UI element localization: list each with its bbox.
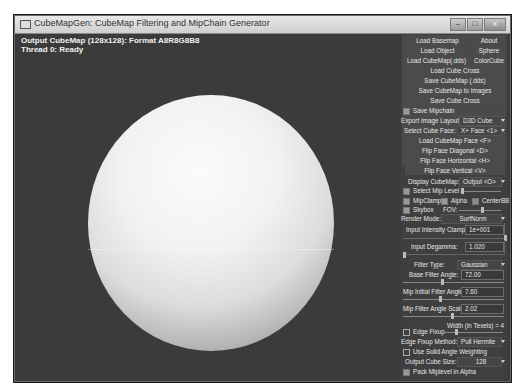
export-image-layout-label: Export Image Layout: — [401, 116, 461, 125]
chevron-down-icon — [501, 180, 505, 183]
select-cube-face-select[interactable]: X+ Face <1> — [457, 126, 502, 136]
save-mipchain-checkbox[interactable] — [403, 108, 410, 115]
base-filter-angle-field[interactable]: 72.00 — [461, 270, 504, 280]
mip-filter-angle-scale-slider-thumb[interactable] — [451, 313, 454, 319]
window-controls: – □ x — [449, 18, 506, 31]
base-filter-angle-row: Base Filter Angle: 72.00 — [401, 270, 508, 279]
select-cube-face-label: Select Cube Face: — [404, 126, 456, 135]
about-button[interactable]: About — [473, 36, 505, 45]
alpha-checkbox[interactable] — [441, 198, 448, 205]
select-mip-level-checkbox[interactable] — [403, 188, 410, 195]
skybox-checkbox[interactable] — [403, 207, 410, 214]
app-icon — [20, 20, 31, 29]
render-mode-row: Render Mode: SurfNorm — [401, 214, 508, 223]
app-window: CubeMapGen: CubeMap Filtering and MipCha… — [14, 15, 511, 382]
pack-mip-alpha-label: Pack Miplevel in Alpha — [413, 368, 476, 375]
chevron-down-icon — [501, 263, 505, 266]
output-format-status: Output CubeMap (128x128): Format A8R8G8B… — [21, 36, 199, 45]
minimize-button[interactable]: – — [450, 18, 466, 31]
filter-type-row: Filter Type: Gaussian — [401, 260, 508, 269]
title-bar[interactable]: CubeMapGen: CubeMap Filtering and MipCha… — [15, 16, 510, 34]
mip-level-slider-thumb[interactable] — [461, 188, 464, 194]
chevron-down-icon — [501, 129, 505, 132]
colorcube-button[interactable]: ColorCube — [473, 56, 505, 65]
base-filter-angle-slider-thumb[interactable] — [441, 279, 444, 285]
load-object-button[interactable]: Load Object — [405, 46, 470, 55]
input-intensity-clamp-row: Input Intensity Clamp: 1e+001 — [401, 225, 508, 234]
control-panel: Load Basemap About Load Object Sphere Lo… — [401, 34, 508, 380]
save-cubemap-dds-button[interactable]: Save CubeMap (.dds) — [405, 76, 505, 85]
export-image-layout-select[interactable]: D3D Cube — [459, 116, 502, 126]
output-cube-size-select[interactable]: 128 — [457, 357, 502, 367]
fov-slider-thumb[interactable] — [481, 207, 484, 213]
flip-face-horizontal-button[interactable]: Flip Face Horizontal <H> — [405, 156, 505, 165]
fov-label: FOV: — [443, 205, 457, 214]
mip-initial-filter-angle-field[interactable]: 7.60 — [461, 287, 504, 297]
mip-filter-angle-scale-label: Mip Filter Angle Scale: — [403, 304, 466, 313]
edge-fixup-row: Edge Fixup — [401, 327, 508, 336]
input-degamma-row: Input Degamma: 1.020 — [401, 242, 508, 251]
display-cubemap-label: Display CubeMap: — [408, 177, 459, 186]
mip-initial-filter-angle-slider-thumb[interactable] — [439, 296, 442, 302]
export-image-layout-row: Export Image Layout: D3D Cube — [401, 116, 508, 125]
chevron-down-icon — [501, 217, 505, 220]
mip-level-slider[interactable] — [461, 191, 501, 192]
load-cubemap-dds-button[interactable]: Load CubeMap(.dds) — [403, 56, 470, 65]
base-filter-angle-slider[interactable] — [403, 282, 504, 283]
input-degamma-field[interactable]: 1.020 — [465, 242, 504, 252]
select-cube-face-row: Select Cube Face: X+ Face <1> — [401, 126, 508, 135]
save-cubemap-images-button[interactable]: Save CubeMap to Images — [405, 86, 505, 95]
select-mip-level-row: Select Mip Level — [401, 186, 508, 195]
mip-filter-angle-scale-field[interactable]: 2.02 — [461, 304, 504, 314]
mipclamp-label: MipClamp — [413, 197, 441, 204]
input-intensity-clamp-field[interactable]: 1e+001 — [465, 225, 504, 235]
select-mip-level-label: Select Mip Level — [413, 187, 459, 194]
flip-face-vertical-button[interactable]: Flip Face Vertical <V> — [405, 166, 505, 175]
sphere-button[interactable]: Sphere — [473, 46, 505, 55]
use-solid-angle-label: Use Solid Angle Weighting — [413, 348, 487, 355]
mip-initial-filter-angle-label: Mip Initial Filter Angle: — [403, 287, 465, 296]
pack-mip-alpha-checkbox[interactable] — [403, 369, 410, 376]
use-solid-angle-checkbox[interactable] — [403, 349, 410, 356]
mipclamp-checkbox[interactable] — [403, 198, 410, 205]
degamma-slider-thumb[interactable] — [403, 252, 406, 258]
input-intensity-clamp-label: Input Intensity Clamp: — [406, 225, 467, 234]
cube-face-seam — [88, 249, 334, 250]
solid-angle-row: Use Solid Angle Weighting — [401, 347, 508, 356]
thread-status: Thread 0: Ready — [21, 45, 199, 54]
flip-face-diagonal-button[interactable]: Flip Face Diagonal <D> — [405, 146, 505, 155]
output-cube-size-row: Output Cube Size: 128 — [401, 357, 508, 366]
load-cube-cross-button[interactable]: Load Cube Cross — [405, 66, 505, 75]
edge-fixup-method-label: Edge Fixup Method: — [401, 337, 457, 346]
save-mipchain-label: Save Mipchain — [413, 107, 454, 114]
centerbb-checkbox[interactable] — [472, 198, 479, 205]
maximize-button[interactable]: □ — [467, 18, 483, 31]
view-options-row: MipClamp Alpha CenterBB — [401, 196, 508, 205]
input-degamma-label: Input Degamma: — [411, 242, 458, 251]
mip-initial-filter-angle-slider[interactable] — [403, 299, 504, 300]
fov-slider[interactable] — [459, 210, 501, 211]
chevron-down-icon — [501, 360, 505, 363]
close-button[interactable]: x — [484, 18, 506, 31]
mip-initial-filter-angle-row: Mip Initial Filter Angle: 7.60 — [401, 287, 508, 296]
save-cube-cross-button[interactable]: Save Cube Cross — [405, 96, 505, 105]
edge-fixup-method-row: Edge Fixup Method: Pull Hermite — [401, 337, 508, 346]
centerbb-label: CenterBB — [482, 197, 509, 204]
filter-type-select[interactable]: Gaussian — [457, 260, 502, 270]
base-filter-angle-label: Base Filter Angle: — [409, 270, 458, 279]
load-cubemap-face-button[interactable]: Load CubeMap Face <F> — [405, 136, 505, 145]
chevron-down-icon — [501, 119, 505, 122]
cubemap-viewport[interactable]: Output CubeMap (128x128): Format A8R8G8B… — [17, 34, 401, 380]
pack-mip-alpha-row: Pack Miplevel in Alpha — [401, 367, 508, 376]
edge-fixup-method-select[interactable]: Pull Hermite — [457, 337, 502, 347]
render-mode-label: Render Mode: — [401, 214, 441, 223]
load-basemap-button[interactable]: Load Basemap — [405, 36, 470, 45]
chevron-down-icon — [501, 340, 505, 343]
filter-type-label: Filter Type: — [414, 260, 445, 269]
output-cube-size-label: Output Cube Size: — [405, 357, 456, 366]
alpha-label: Alpha — [451, 197, 467, 204]
skybox-row: Skybox FOV: — [401, 205, 508, 214]
save-mipchain-row[interactable]: Save Mipchain — [401, 106, 508, 115]
edge-fixup-checkbox[interactable] — [403, 329, 410, 336]
status-text: Output CubeMap (128x128): Format A8R8G8B… — [21, 36, 199, 54]
